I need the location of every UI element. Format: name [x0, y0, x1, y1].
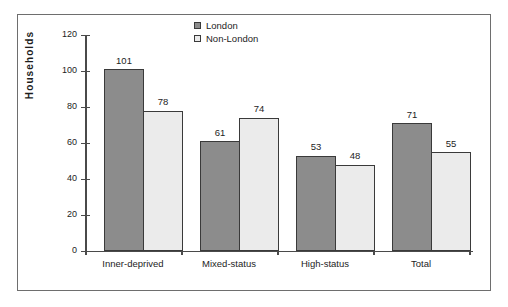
bar-value-inner-deprived-non-london: 78: [143, 96, 183, 107]
bar-chart-figure: Households 120 100 80 60 40 20 0 101 78 …: [0, 0, 508, 307]
legend-item-non-london[interactable]: Non-London: [194, 32, 258, 45]
y-tick-40: [81, 179, 90, 181]
legend-item-london[interactable]: London: [194, 19, 258, 32]
bar-inner-deprived-non-london[interactable]: [143, 111, 183, 251]
y-tick-120: [81, 35, 90, 37]
y-tick-20: [81, 215, 90, 217]
bar-high-status-non-london[interactable]: [335, 165, 375, 251]
bar-high-status-london[interactable]: [296, 156, 336, 251]
x-category-label-inner-deprived: Inner-deprived: [85, 258, 181, 269]
legend-label-non-london: Non-London: [206, 33, 258, 44]
bar-total-london[interactable]: [392, 123, 432, 251]
x-category-label-total: Total: [373, 258, 469, 269]
bar-total-non-london[interactable]: [431, 152, 471, 251]
y-tick-label-40: 40: [47, 173, 77, 183]
bar-value-high-status-non-london: 48: [335, 150, 375, 161]
x-category-label-high-status: High-status: [277, 258, 373, 269]
bar-mixed-status-london[interactable]: [200, 141, 240, 251]
bar-value-total-london: 71: [392, 109, 432, 120]
y-axis-title: Households: [24, 10, 44, 120]
bar-value-high-status-london: 53: [296, 141, 336, 152]
y-tick-label-20: 20: [47, 209, 77, 219]
y-tick-label-0: 0: [47, 245, 77, 255]
y-tick-100: [81, 71, 90, 73]
y-tick-label-120: 120: [47, 29, 77, 39]
y-tick-60: [81, 143, 90, 145]
london-swatch-icon: [194, 22, 201, 29]
bar-value-total-non-london: 55: [431, 138, 471, 149]
bar-value-inner-deprived-london: 101: [104, 55, 144, 66]
bar-inner-deprived-london[interactable]: [104, 69, 144, 251]
x-separator-0: [85, 247, 87, 255]
y-tick-label-80: 80: [47, 101, 77, 111]
legend-label-london: London: [206, 20, 238, 31]
bar-value-mixed-status-london: 61: [200, 127, 240, 138]
y-tick-80: [81, 107, 90, 109]
non-london-swatch-icon: [194, 35, 201, 42]
x-category-label-mixed-status: Mixed-status: [181, 258, 277, 269]
y-tick-label-100: 100: [47, 65, 77, 75]
bar-mixed-status-non-london[interactable]: [239, 118, 279, 251]
y-tick-label-60: 60: [47, 137, 77, 147]
bar-value-mixed-status-non-london: 74: [239, 103, 279, 114]
chart-legend: London Non-London: [194, 19, 258, 45]
